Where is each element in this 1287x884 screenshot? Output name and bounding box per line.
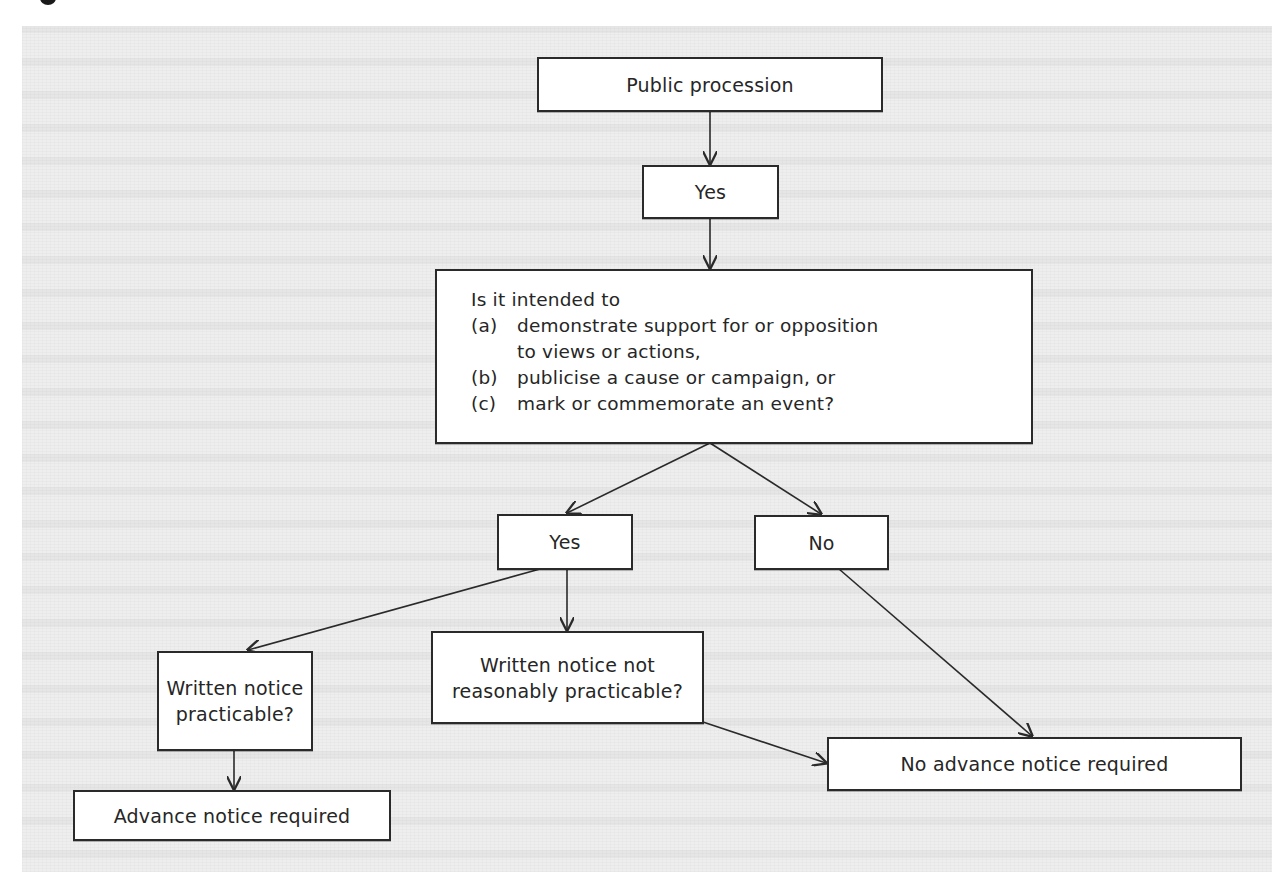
node-label-line1: Written notice bbox=[166, 675, 303, 701]
node-label-line2: practicable? bbox=[176, 701, 294, 727]
node-written-notice-practicable: Written notice practicable? bbox=[157, 651, 313, 751]
edge-question-to-no bbox=[710, 443, 821, 514]
edge-question-to-yes bbox=[567, 443, 710, 513]
node-label: No advance notice required bbox=[900, 751, 1168, 777]
option-text: mark or commemorate an event? bbox=[517, 391, 834, 417]
option-marker: (a) bbox=[471, 313, 517, 339]
option-marker: (b) bbox=[471, 365, 517, 391]
question-option-a: (a) demonstrate support for or oppositio… bbox=[471, 313, 1031, 339]
node-no-mid: No bbox=[754, 515, 889, 570]
question-option-b: (b) publicise a cause or campaign, or bbox=[471, 365, 1031, 391]
edge-no-to-no-advance bbox=[839, 569, 1032, 736]
edge-not-practicable-to-no-advance bbox=[703, 722, 826, 763]
node-label-line2: reasonably practicable? bbox=[452, 678, 683, 704]
node-public-procession: Public procession bbox=[537, 57, 883, 112]
question-intro: Is it intended to bbox=[471, 287, 1031, 313]
question-option-c: (c) mark or commemorate an event? bbox=[471, 391, 1031, 417]
node-advance-notice-required: Advance notice required bbox=[73, 790, 391, 841]
node-label: Public procession bbox=[626, 72, 794, 98]
node-intent-question: Is it intended to (a) demonstrate suppor… bbox=[435, 269, 1033, 444]
option-marker: (c) bbox=[471, 391, 517, 417]
node-label: Advance notice required bbox=[114, 803, 351, 829]
option-a-continuation: to views or actions, bbox=[471, 339, 1031, 365]
node-written-notice-not-practicable: Written notice not reasonably practicabl… bbox=[431, 631, 704, 724]
node-yes-top: Yes bbox=[642, 165, 779, 219]
node-label-line1: Written notice not bbox=[480, 652, 655, 678]
node-yes-mid: Yes bbox=[497, 514, 633, 570]
node-label: No bbox=[808, 530, 834, 556]
node-label: Yes bbox=[549, 529, 580, 555]
node-no-advance-notice-required: No advance notice required bbox=[827, 737, 1242, 791]
option-text: demonstrate support for or opposition bbox=[517, 313, 878, 339]
option-text: publicise a cause or campaign, or bbox=[517, 365, 835, 391]
node-label: Yes bbox=[695, 179, 726, 205]
